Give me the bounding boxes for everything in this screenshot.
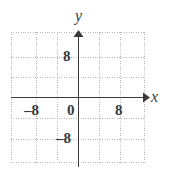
y-tick-label-positive-8: 8 bbox=[63, 49, 71, 64]
x-axis bbox=[11, 93, 150, 103]
x-tick-label-negative-8: –8 bbox=[24, 103, 39, 118]
coordinate-plane-figure: –8 0 8 8 –8 y x bbox=[0, 0, 169, 172]
x-tick-label-positive-8: 8 bbox=[115, 103, 123, 118]
plot-canvas bbox=[0, 0, 169, 172]
y-axis-label: y bbox=[75, 8, 82, 24]
origin-label: 0 bbox=[67, 103, 75, 118]
y-tick-label-negative-8: –8 bbox=[56, 131, 71, 146]
y-axis bbox=[74, 30, 84, 167]
x-axis-label: x bbox=[151, 89, 158, 105]
